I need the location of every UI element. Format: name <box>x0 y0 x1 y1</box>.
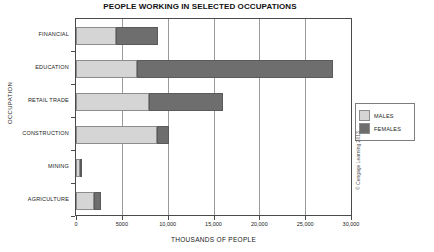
x-axis-tick <box>168 216 169 220</box>
bar-row <box>76 60 351 78</box>
bar-segment-females <box>116 27 157 45</box>
bar-segment-males <box>76 93 149 111</box>
y-axis-tick <box>71 84 75 85</box>
bar-row <box>76 192 351 210</box>
gridline <box>168 19 169 215</box>
y-axis-tick-label: AGRICULTURE <box>28 196 69 202</box>
y-axis-tick-label: FINANCIAL <box>38 31 69 37</box>
x-axis-tick <box>76 216 77 220</box>
x-axis-tick-label: 0 <box>74 221 77 227</box>
x-axis-tick-label: 30,000 <box>343 221 360 227</box>
gridline <box>214 19 215 215</box>
bar-segment-females <box>94 192 100 210</box>
bar-row <box>76 126 351 144</box>
chart-screenshot: PEOPLE WORKING IN SELECTED OCCUPATIONS O… <box>0 0 434 252</box>
bar-row <box>76 159 351 177</box>
legend-item: MALES <box>359 110 411 121</box>
x-axis-tick-label: 10,000 <box>159 221 176 227</box>
legend-item: FEMALES <box>359 123 411 134</box>
chart-legend: MALESFEMALES <box>355 103 415 141</box>
x-axis-tick <box>305 216 306 220</box>
bar-segment-females <box>137 60 333 78</box>
legend-label: FEMALES <box>374 126 401 132</box>
y-axis-tick <box>71 150 75 151</box>
bar-segment-males <box>76 192 94 210</box>
y-axis-tick <box>71 117 75 118</box>
legend-label: MALES <box>374 113 394 119</box>
x-axis-title: THOUSANDS OF PEOPLE <box>75 236 352 243</box>
bar-row <box>76 27 351 45</box>
x-axis-tick <box>122 216 123 220</box>
y-axis-tick-label: RETAIL TRADE <box>28 97 69 103</box>
y-axis-tick <box>71 183 75 184</box>
x-axis-tick <box>259 216 260 220</box>
bar-segment-males <box>76 60 137 78</box>
x-axis-tick-label: 20,000 <box>251 221 268 227</box>
bar-segment-females <box>149 93 222 111</box>
y-axis-tick-label: EDUCATION <box>35 64 69 70</box>
y-axis-tick <box>71 51 75 52</box>
gridline <box>122 19 123 215</box>
y-axis-tick-label: CONSTRUCTION <box>22 130 69 136</box>
bar-segment-females <box>80 159 82 177</box>
x-axis-tick-label: 25,000 <box>297 221 314 227</box>
attribution-text: © Cengage Learning 2013 <box>355 70 361 190</box>
x-axis-tick <box>214 216 215 220</box>
plot-area <box>75 18 352 216</box>
chart-title: PEOPLE WORKING IN SELECTED OCCUPATIONS <box>0 2 400 11</box>
x-axis-tick-label: 15,000 <box>205 221 222 227</box>
bar-segment-males <box>76 126 157 144</box>
y-axis-tick-label: MINING <box>48 163 69 169</box>
y-axis-labels: FINANCIALEDUCATIONRETAIL TRADECONSTRUCTI… <box>0 18 73 216</box>
gridline <box>259 19 260 215</box>
y-axis-tick <box>71 216 75 217</box>
bar-row <box>76 93 351 111</box>
bar-segment-males <box>76 27 116 45</box>
bar-segment-females <box>157 126 169 144</box>
gridline <box>305 19 306 215</box>
x-axis-tick <box>351 216 352 220</box>
x-axis-tick-label: 5000 <box>116 221 128 227</box>
